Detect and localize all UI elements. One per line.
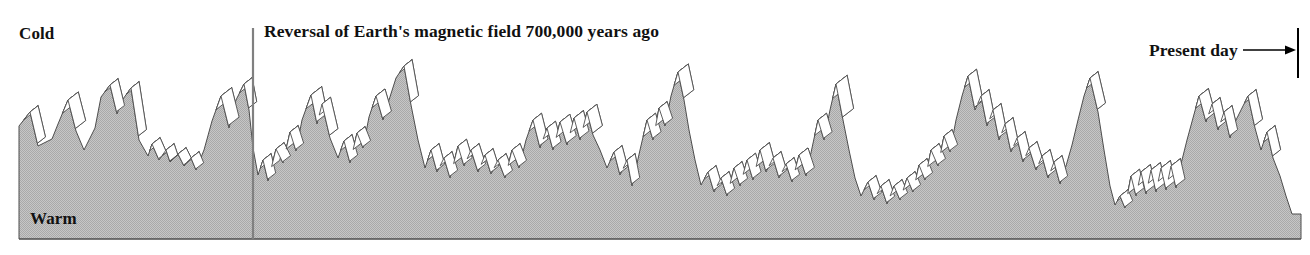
axis-label-warm: Warm [30, 209, 77, 229]
paleoclimate-figure: Cold Warm Reversal of Earth's magnetic f… [0, 0, 1310, 255]
chart-geometry [19, 28, 1301, 239]
temperature-area-front [19, 66, 1301, 239]
present-day-arrow-head [1285, 45, 1296, 54]
annotation-magnetic-reversal: Reversal of Earth's magnetic field 700,0… [264, 21, 659, 42]
annotation-present-day: Present day [1149, 40, 1238, 61]
axis-label-cold: Cold [19, 24, 54, 44]
